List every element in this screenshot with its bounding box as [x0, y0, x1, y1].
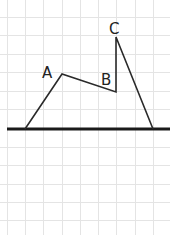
- label-point-c: C: [109, 20, 119, 38]
- profile-polyline: [25, 37, 153, 129]
- label-point-b: B: [101, 71, 111, 89]
- label-point-a: A: [42, 64, 53, 82]
- diagram-canvas: A B C: [0, 0, 170, 235]
- grid-background: [0, 0, 170, 235]
